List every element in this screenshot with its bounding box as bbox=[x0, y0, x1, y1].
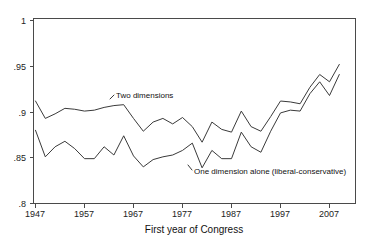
chart-figure: 1 .95 .9 .85 .8 1947 1957 1967 1977 1987… bbox=[0, 0, 365, 244]
x-tick-label-1977: 1977 bbox=[172, 209, 192, 219]
x-tick-label-1967: 1967 bbox=[123, 209, 143, 219]
y-axis-tick-labels: 1 .95 .9 .85 .8 bbox=[13, 16, 26, 209]
series-line-one-dimension bbox=[36, 74, 340, 167]
y-axis-ticks bbox=[30, 21, 34, 204]
x-axis-ticks bbox=[36, 204, 330, 208]
series-annotation-two-dimensions: Two dimensions bbox=[116, 91, 173, 100]
x-tick-label-1997: 1997 bbox=[270, 209, 290, 219]
x-axis-tick-labels: 1947 1957 1967 1977 1987 1997 2007 bbox=[25, 209, 339, 219]
y-tick-label-08: .8 bbox=[18, 199, 26, 209]
series-annotation-one-dimension: One dimension alone (liberal-conservativ… bbox=[194, 167, 346, 176]
x-tick-label-1947: 1947 bbox=[25, 209, 45, 219]
y-tick-label-095: .95 bbox=[13, 62, 26, 72]
annotation-leader-two-dimensions bbox=[110, 95, 114, 99]
series-line-two-dimensions bbox=[36, 64, 340, 142]
series-group bbox=[36, 64, 340, 167]
y-tick-label-1: 1 bbox=[21, 16, 26, 26]
x-tick-label-1957: 1957 bbox=[74, 209, 94, 219]
y-tick-label-085: .85 bbox=[13, 153, 26, 163]
line-chart-canvas: 1 .95 .9 .85 .8 1947 1957 1967 1977 1987… bbox=[0, 0, 365, 244]
annotation-leaders bbox=[110, 95, 192, 170]
x-tick-label-2007: 2007 bbox=[319, 209, 339, 219]
x-tick-label-1987: 1987 bbox=[221, 209, 241, 219]
x-axis-title: First year of Congress bbox=[145, 224, 243, 235]
y-tick-label-09: .9 bbox=[18, 108, 26, 118]
annotation-leader-one-dimension bbox=[188, 165, 192, 170]
